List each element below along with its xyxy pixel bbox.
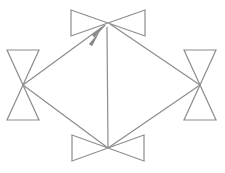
diagram-canvas	[0, 0, 225, 173]
node-layer	[7, 10, 216, 161]
arrowhead-into-top-from-left	[92, 25, 106, 38]
cropped-caption-artifact	[0, 170, 225, 173]
edge-bottom-to-top	[107, 27, 108, 148]
edge-layer	[23, 24, 200, 148]
right-bowtie	[184, 50, 216, 120]
edge-left-to-bottom	[23, 85, 108, 148]
left-bowtie	[7, 50, 39, 120]
diagram-svg	[0, 0, 225, 173]
top-bowtie	[71, 10, 145, 36]
